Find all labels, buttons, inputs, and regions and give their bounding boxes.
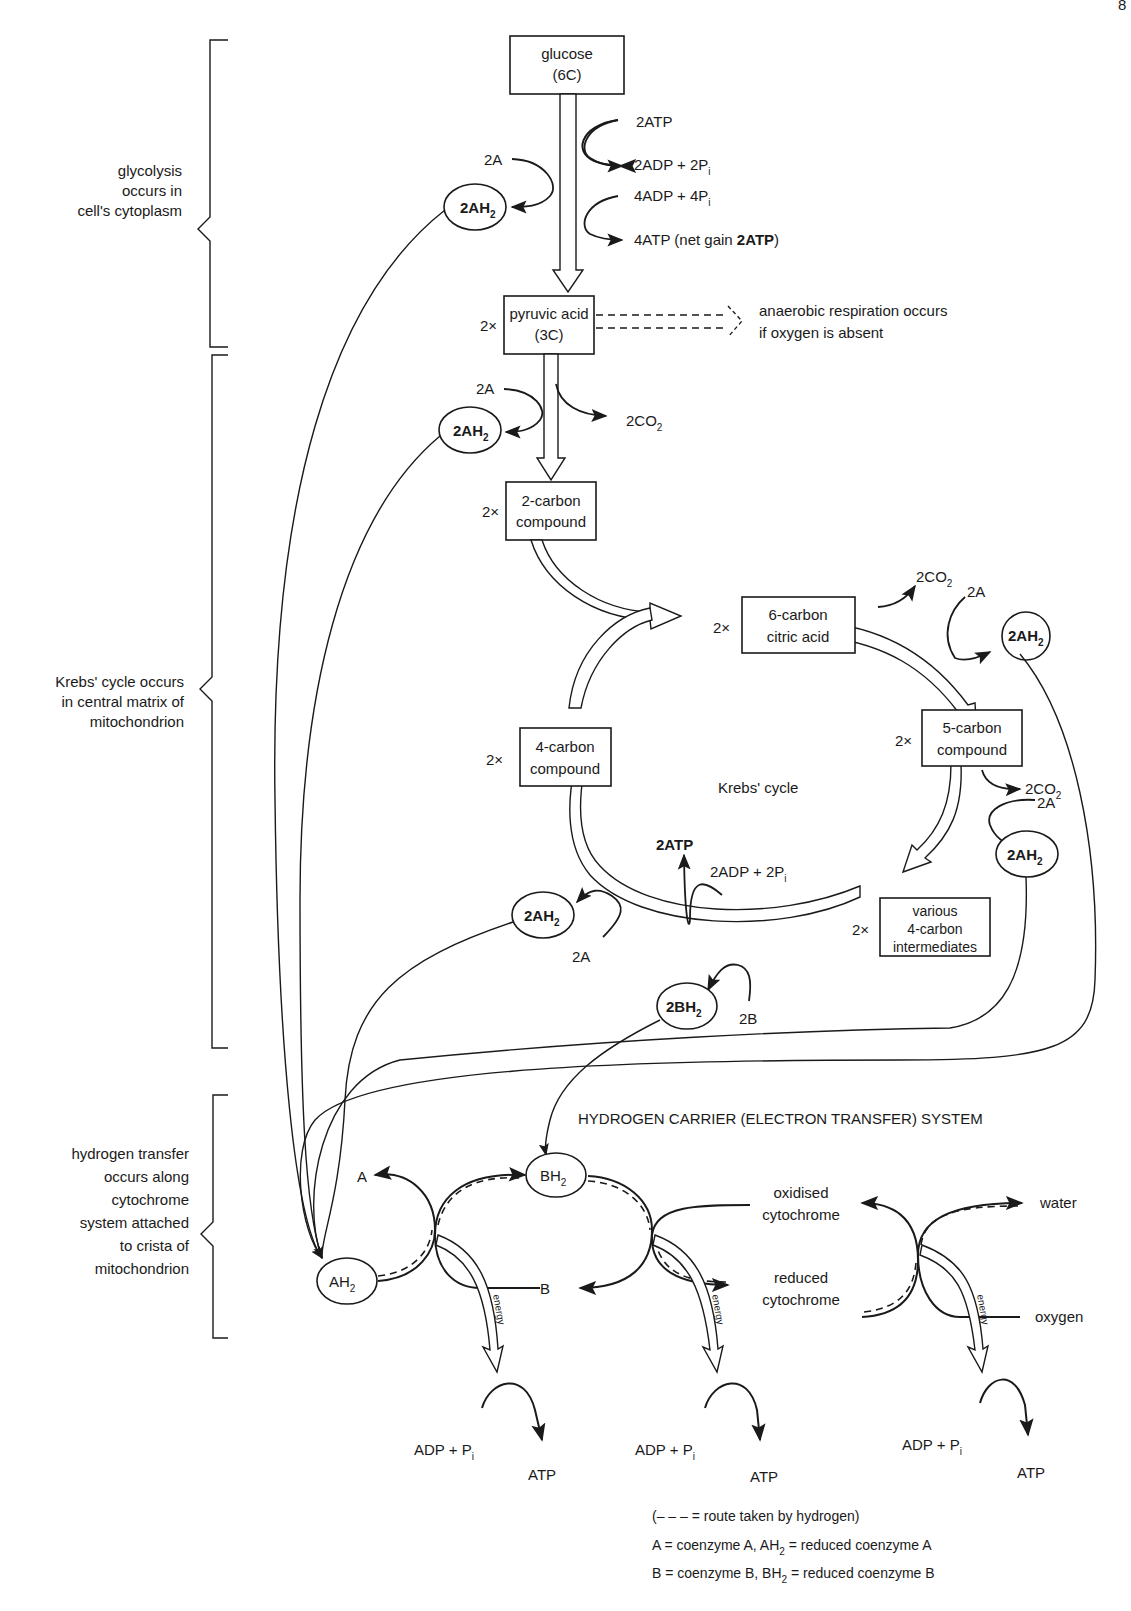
arrow-2a-to-2ah2-pyruvate [504,389,542,432]
page-number: 8 [1118,0,1126,13]
label-2atp-krebs: 2ATP [656,836,693,853]
arrow-2atp-to-2adp [582,120,621,166]
arrow-2co2-pyruvate [556,384,606,416]
arrow-4adp-to-4atp [585,196,622,240]
legend-dashed-route: (– – – = route taken by hydrogen) [652,1508,859,1524]
five-carbon-multiplier: 2× [895,732,912,749]
energy-arrow-1: energy [436,1235,507,1372]
arrow-adp-to-atp-2 [705,1383,760,1440]
label-2co2-pyruvate: 2CO2 [626,412,663,433]
glucose-label: glucose [541,45,593,62]
label-2a-step1: 2A [967,583,985,600]
intermediates-label-1: various [912,903,957,919]
arrow-2a-to-2ah2-glycolysis [512,159,553,207]
intermediates-label-2: 4-carbon [907,921,962,937]
label-4adp-in: 4ADP + 4Pi [634,187,711,208]
two-carbon-label-1: 2-carbon [521,492,580,509]
arrow-atp-consumed [585,120,622,166]
label-2adp-out: 2ADP + 2Pi [634,156,711,177]
label-4atp-out: 4ATP (net gain 2ATP) [634,231,779,248]
citric-acid-label-2: citric acid [767,628,830,645]
four-carbon-label-2: compound [530,760,600,777]
label-2a-glycolysis: 2A [484,151,502,168]
five-carbon-label-2: compound [937,741,1007,758]
label-2adp-krebs: 2ADP + 2Pi [710,863,787,884]
label-oxygen: oxygen [1035,1308,1083,1325]
label-oxidised-cytochrome-2: cytochrome [762,1206,840,1223]
hydrogen-route-5 [864,1262,916,1312]
label-2co2-step1: 2CO2 [916,568,953,589]
line-2ah2-step3-to-ah2 [322,922,513,1258]
respiration-diagram: 8 glucose (6C) 2ATP 2ADP + 2Pi 4ADP + 4P… [0,0,1131,1611]
two-carbon-box [506,482,596,540]
hydrogen-route-3 [588,1181,650,1230]
label-2a-step2: 2A [1037,794,1055,811]
electron-transfer-title: HYDROGEN CARRIER (ELECTRON TRANSFER) SYS… [578,1110,983,1127]
label-reduced-cytochrome-2: cytochrome [762,1291,840,1308]
citric-acid-multiplier: 2× [713,619,730,636]
arc-ah2-to-a [375,1174,435,1281]
anaerobic-note-line1: anaerobic respiration occurs [759,302,947,319]
energy-arrow-3: energy [920,1245,991,1372]
dashed-arrowhead [728,306,742,337]
arc-reduced-to-oxidised [862,1203,918,1317]
hydrogen-route-2 [438,1178,520,1225]
four-carbon-label-1: 4-carbon [535,738,594,755]
brace-krebs [200,355,228,1048]
label-water: water [1039,1194,1077,1211]
brace-hydrogen [201,1095,228,1338]
four-carbon-multiplier: 2× [486,751,503,768]
label-oxidised-cytochrome-1: oxidised [773,1184,828,1201]
arrow-adp-to-atp-3 [980,1380,1028,1435]
pyruvic-multiplier: 2× [480,317,497,334]
arrow-2a-to-2ah2-step1 [948,597,990,659]
arrow-adp-to-atp-1 [482,1383,542,1440]
hydrogen-route-1 [378,1230,432,1276]
energy-arrow-2: energy [653,1235,726,1372]
legend-coenzyme-b: B = coenzyme B, BH2 = reduced coenzyme B [652,1565,935,1585]
cycle-band-5carbon-to-intermediates [903,764,961,872]
label-adp-pi-2: ADP + Pi [635,1441,695,1462]
label-atp-3: ATP [1017,1464,1045,1481]
glucose-carbon-count: (6C) [552,66,581,83]
arrow-2a-to-2ah2-step3 [577,891,621,937]
label-2atp-in: 2ATP [636,113,672,130]
citric-acid-label-1: 6-carbon [768,606,827,623]
label-adp-pi-1: ADP + Pi [414,1441,474,1462]
label-2a-step3: 2A [572,948,590,965]
label-2b: 2B [739,1010,757,1027]
line-2ah2-glycolysis-to-ah2 [275,210,445,1258]
label-a: A [357,1168,367,1185]
label-atp-1: ATP [528,1466,556,1483]
label-2a-pyruvate: 2A [476,380,494,397]
two-carbon-label-2: compound [516,513,586,530]
arrow-2co2-step1 [878,586,915,607]
arrow-2co2-step2 [982,770,1020,789]
hydrogen-route-6 [921,1206,1018,1245]
two-carbon-multiplier: 2× [482,503,499,520]
arc-bh2-to-b [580,1176,652,1288]
anaerobic-note-line2: if oxygen is absent [759,324,884,341]
intermediates-label-3: intermediates [893,939,977,955]
hollow-arrow-2carbon-to-citric [531,540,681,629]
five-carbon-label-1: 5-carbon [942,719,1001,736]
brace-glycolysis [198,40,228,347]
label-adp-pi-3: ADP + Pi [902,1436,962,1457]
pyruvic-acid-carbon-count: (3C) [534,326,563,343]
label-reduced-cytochrome-1: reduced [774,1269,828,1286]
hollow-arrow-glucose-to-pyruvate [553,94,583,292]
four-carbon-box [520,728,611,786]
label-atp-2: ATP [750,1468,778,1485]
krebs-cycle-title: Krebs' cycle [718,779,798,796]
intermediates-multiplier: 2× [852,921,869,938]
arc-b-to-bh2 [435,1175,540,1288]
line-2ah2-pyruvate-to-ah2 [300,436,440,1258]
pyruvic-acid-label: pyruvic acid [509,305,588,322]
legend-coenzyme-a: A = coenzyme A, AH2 = reduced coenzyme A [652,1537,932,1557]
label-b: B [540,1280,550,1297]
cycle-band-4carbon-to-6carbon [569,608,652,708]
